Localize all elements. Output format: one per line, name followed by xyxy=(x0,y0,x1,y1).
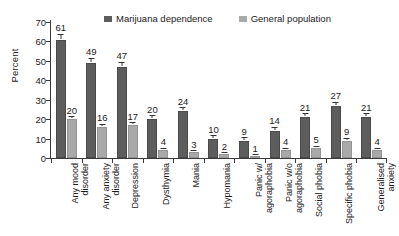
legend-swatch-marijuana-dependence xyxy=(104,16,112,22)
bar-value-label: 4 xyxy=(283,137,288,147)
bar: 24 xyxy=(178,111,188,158)
bar-column: 5 xyxy=(311,22,321,158)
bar: 4 xyxy=(281,150,291,158)
bar: 9 xyxy=(239,141,249,158)
x-axis-tick-label: Social phobia xyxy=(315,163,325,233)
bar-column: 20 xyxy=(67,22,77,158)
y-axis-title: Percent xyxy=(9,30,20,102)
bar: 49 xyxy=(86,63,96,158)
bar-value-label: 21 xyxy=(300,103,311,113)
bar: 4 xyxy=(372,150,382,158)
bar-column: 9 xyxy=(239,22,249,158)
error-bar xyxy=(346,138,347,140)
bar-group: 6120 xyxy=(51,22,82,158)
bar: 61 xyxy=(56,40,66,159)
bar: 17 xyxy=(128,125,138,158)
bar-column: 24 xyxy=(178,22,188,158)
bar-column: 1 xyxy=(250,22,260,158)
bar-column: 9 xyxy=(342,22,352,158)
bar-value-label: 21 xyxy=(361,103,372,113)
x-axis-tick-label-line: anxiety xyxy=(386,163,396,233)
x-axis-tick-label-line: Hypomania xyxy=(223,163,233,233)
bar-column: 14 xyxy=(270,22,280,158)
x-axis-tick-label-line: disorder xyxy=(111,163,121,233)
bar-group: 91 xyxy=(234,22,265,158)
x-axis-tick-label-line: Generalised xyxy=(377,163,387,233)
bar-group: 214 xyxy=(356,22,387,158)
bar-value-label: 61 xyxy=(55,23,66,33)
bar-value-label: 20 xyxy=(66,106,77,116)
y-axis-tick-label: 50 xyxy=(22,55,46,66)
x-axis-tick-label: Hypomania xyxy=(223,163,233,233)
bar-column: 61 xyxy=(56,22,66,158)
x-axis-tick-label: Any anxietydisorder xyxy=(102,163,121,233)
bar-column: 2 xyxy=(219,22,229,158)
error-bar xyxy=(152,115,153,118)
error-bar xyxy=(305,113,306,116)
bar: 10 xyxy=(208,139,218,158)
bar-value-label: 10 xyxy=(208,125,219,135)
x-axis-tick-label-line: Dysthymia xyxy=(162,163,172,233)
error-bar xyxy=(224,152,225,153)
x-axis-tick-label-line: agoraphobia xyxy=(264,163,274,233)
bar-value-label: 4 xyxy=(375,137,380,147)
legend-swatch-general-population xyxy=(239,16,247,22)
bar-group: 4916 xyxy=(82,22,113,158)
error-bar xyxy=(244,137,245,139)
x-axis-tick-label-line: Social phobia xyxy=(315,163,325,233)
error-bar xyxy=(255,154,256,155)
bar: 20 xyxy=(147,119,157,158)
bar-column: 17 xyxy=(128,22,138,158)
bar-group: 102 xyxy=(204,22,235,158)
y-axis-tick-label: 70 xyxy=(22,17,46,28)
error-bar xyxy=(193,150,194,151)
bar-value-label: 27 xyxy=(330,91,341,101)
bar-column: 16 xyxy=(97,22,107,158)
error-bar xyxy=(102,124,103,126)
bar-value-label: 47 xyxy=(117,51,128,61)
x-axis-tick-label: Depression xyxy=(131,163,141,233)
bar-column: 4 xyxy=(158,22,168,158)
error-bar xyxy=(182,107,183,110)
bar-group: 279 xyxy=(326,22,357,158)
bar-column: 4 xyxy=(372,22,382,158)
bar-value-label: 20 xyxy=(147,105,158,115)
error-bar xyxy=(274,127,275,130)
bar-column: 20 xyxy=(147,22,157,158)
bar: 9 xyxy=(342,141,352,158)
y-axis-tick-labels: 010203040506070 xyxy=(22,22,46,158)
y-axis-tick-label: 40 xyxy=(22,75,46,86)
bar-value-label: 1 xyxy=(252,144,257,154)
bar-value-label: 2 xyxy=(222,142,227,152)
bar: 5 xyxy=(311,148,321,158)
error-bar xyxy=(71,116,72,118)
bar-chart-figure: Marijuana dependence General population … xyxy=(0,0,399,236)
error-bar xyxy=(121,62,122,66)
y-axis-tick-label: 30 xyxy=(22,94,46,105)
bar-value-label: 49 xyxy=(86,47,97,57)
bar-column: 21 xyxy=(361,22,371,158)
bar-value-label: 5 xyxy=(313,135,318,145)
error-bar xyxy=(335,102,336,105)
error-bar xyxy=(366,113,367,116)
bar-group: 204 xyxy=(143,22,174,158)
x-axis-tick-label-line: Specific phobia xyxy=(345,163,355,233)
x-axis-tick-label: Mania xyxy=(192,163,202,233)
y-axis-tick-label: 10 xyxy=(22,133,46,144)
x-axis-tick-label: Specific phobia xyxy=(345,163,355,233)
bar-group: 144 xyxy=(265,22,296,158)
y-axis-tick-label: 20 xyxy=(22,114,46,125)
bar: 16 xyxy=(97,127,107,158)
error-bar xyxy=(316,146,317,148)
plot-area: 61204916471720424310291144215279214 xyxy=(51,22,387,158)
x-axis-tick-labels: Any mooddisorderAny anxietydisorderDepre… xyxy=(51,163,387,235)
bar: 47 xyxy=(117,67,127,158)
bar-group: 4717 xyxy=(112,22,143,158)
x-axis-tick-label: Panic w/agoraphobia xyxy=(255,163,274,233)
error-bar xyxy=(132,122,133,124)
bar-group: 243 xyxy=(173,22,204,158)
error-bar xyxy=(91,58,92,62)
bar: 20 xyxy=(67,119,77,158)
bar-column: 4 xyxy=(281,22,291,158)
bar-column: 47 xyxy=(117,22,127,158)
